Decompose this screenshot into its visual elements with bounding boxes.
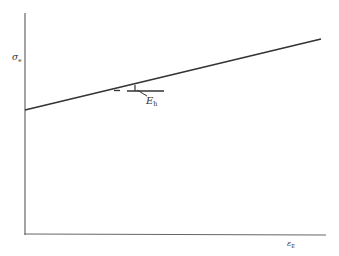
- y-axis-label: σe: [12, 52, 21, 63]
- hardening-line: [25, 39, 321, 110]
- x-axis-label: εE: [287, 239, 295, 249]
- diagram-canvas: Eh σe εE: [0, 0, 339, 256]
- x-axis: [25, 234, 327, 235]
- slope-label: Eh: [145, 95, 158, 108]
